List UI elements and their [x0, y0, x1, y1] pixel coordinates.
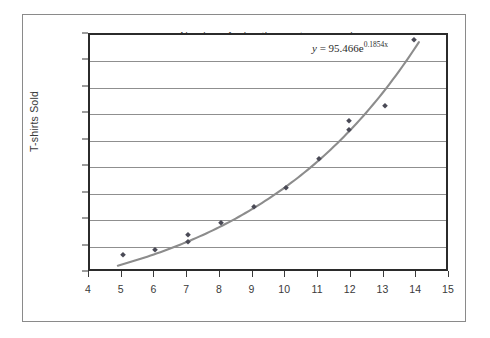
data-point — [120, 252, 126, 258]
x-tick-label: 6 — [150, 283, 156, 295]
equation-body: = 95.466e — [317, 42, 364, 54]
x-tick-label: 12 — [344, 283, 356, 295]
data-point — [152, 247, 158, 253]
data-point — [316, 156, 322, 162]
x-tick-label: 10 — [278, 283, 290, 295]
data-point — [283, 185, 289, 191]
x-tick-label: 4 — [85, 283, 91, 295]
data-point — [218, 220, 224, 226]
data-point — [185, 232, 191, 238]
x-tick-label: 7 — [183, 283, 189, 295]
plot-area — [88, 33, 448, 271]
x-tick-mark — [88, 271, 89, 277]
x-tick-label: 14 — [409, 283, 421, 295]
y-axis-title: T-shirts Sold — [28, 91, 40, 152]
data-point — [381, 103, 387, 109]
x-tick-label: 15 — [442, 283, 454, 295]
equation-exponent: 0.1854x — [364, 40, 388, 49]
chart-figure: 200325450575700825950107512001325 T-shir… — [0, 0, 490, 338]
x-tick-label: 5 — [118, 283, 124, 295]
trendline-equation-label: y = 95.466e0.1854x — [312, 40, 388, 54]
x-tick-label: 9 — [249, 283, 255, 295]
y-axis: 200325450575700825950107512001325 — [0, 0, 88, 271]
data-point — [185, 239, 191, 245]
data-point — [345, 118, 351, 124]
x-tick-label: 13 — [376, 283, 388, 295]
data-point — [345, 127, 351, 133]
x-tick-label: 8 — [216, 283, 222, 295]
data-point — [411, 37, 417, 43]
data-point — [251, 204, 257, 210]
data-series — [90, 35, 446, 269]
x-tick-label: 11 — [311, 283, 322, 295]
x-axis: 456789101112131415 — [0, 271, 490, 311]
